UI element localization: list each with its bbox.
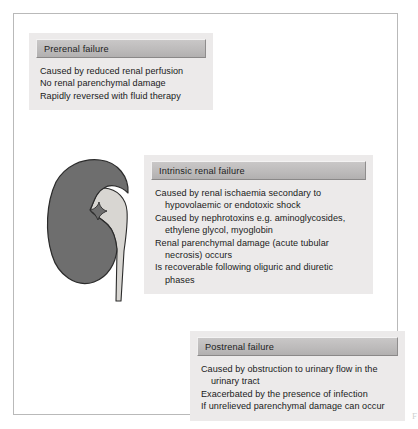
panel-line: Exacerbated by the presence of infection — [201, 388, 396, 400]
panel-line: Caused by obstruction to urinary flow in… — [201, 363, 396, 388]
panel-postrenal-header: Postrenal failure — [197, 337, 398, 356]
panel-line: Caused by reduced renal perfusion — [40, 65, 204, 77]
panel-line: Renal parenchymal damage (acute tubular … — [155, 237, 364, 262]
panel-intrinsic-body: Caused by renal ischaemia secondary to h… — [144, 180, 373, 294]
panel-line: Rapidly reversed with fluid therapy — [40, 90, 204, 102]
panel-line: If unrelieved parenchymal damage can occ… — [201, 400, 396, 412]
kidney-svg — [44, 155, 152, 315]
panel-line: No renal parenchymal damage — [40, 77, 204, 89]
panel-prerenal-header: Prerenal failure — [36, 39, 206, 58]
panel-intrinsic-renal-failure: Intrinsic renal failure Caused by renal … — [144, 155, 373, 294]
kidney-diagram — [44, 155, 152, 315]
panel-line: Caused by renal ischaemia secondary to h… — [155, 187, 364, 212]
panel-line: Is recoverable following oliguric and di… — [155, 261, 364, 286]
panel-postrenal-body: Caused by obstruction to urinary flow in… — [190, 356, 405, 421]
panel-intrinsic-header: Intrinsic renal failure — [151, 161, 366, 180]
panel-prerenal-title: Prerenal failure — [37, 44, 109, 54]
panel-prerenal-body: Caused by reduced renal perfusion No ren… — [29, 58, 213, 110]
figure-frame: Prerenal failure Caused by reduced renal… — [13, 13, 398, 415]
panel-line: Caused by nephrotoxins e.g. aminoglycosi… — [155, 212, 364, 237]
panel-prerenal-failure: Prerenal failure Caused by reduced renal… — [29, 33, 213, 110]
panel-postrenal-title: Postrenal failure — [198, 342, 274, 352]
panel-intrinsic-title: Intrinsic renal failure — [152, 166, 245, 176]
edge-glyph: F — [412, 411, 417, 421]
panel-postrenal-failure: Postrenal failure Caused by obstruction … — [190, 331, 405, 421]
